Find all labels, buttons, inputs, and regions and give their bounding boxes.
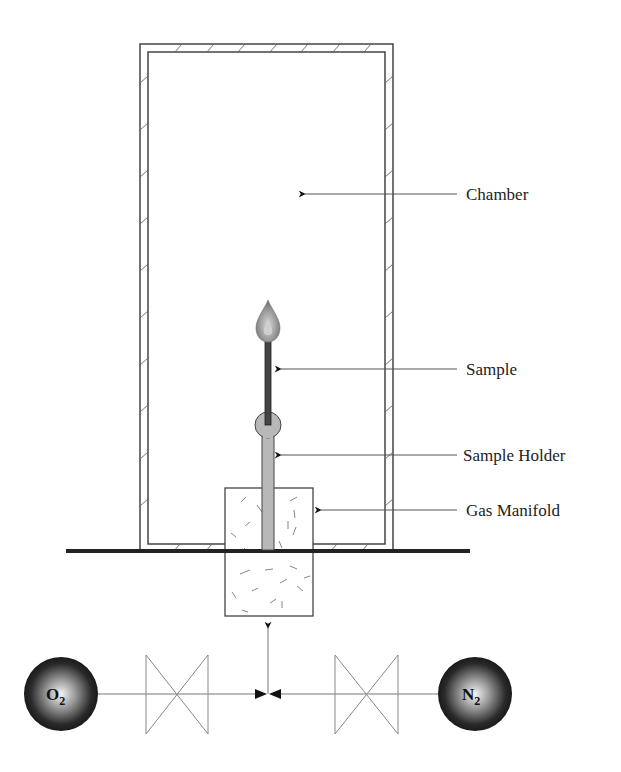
sample-holder-label: Sample Holder	[463, 446, 566, 465]
apparatus-diagram: Chamber Sample Sample Holder Gas Manifol…	[0, 0, 621, 772]
n2-cylinder: N2	[438, 657, 512, 731]
o2-cylinder: O2	[24, 657, 98, 731]
sample-label: Sample	[466, 360, 517, 379]
gas-lines	[97, 628, 440, 694]
gas-manifold-label: Gas Manifold	[466, 501, 560, 520]
chamber-label: Chamber	[466, 185, 529, 204]
sample-rod	[265, 340, 271, 425]
